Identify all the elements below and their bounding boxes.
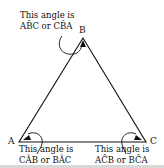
triangle [19, 38, 146, 142]
annotation-right-line1: This angle is [95, 144, 149, 155]
angle-markers [23, 40, 142, 140]
vertex-label-c: C [150, 136, 157, 146]
angle-marker-a [23, 135, 31, 140]
bottom-border [0, 165, 164, 168]
annotation-top: This angle is AB̂C or CB̂A [20, 10, 74, 32]
vertex-label-b: B [79, 25, 86, 35]
annotation-left: This angle is CÂB or BÂC [19, 144, 73, 166]
vertex-label-a: A [8, 136, 15, 146]
callout-arrows [28, 36, 136, 154]
annotation-left-line1: This angle is [19, 144, 73, 155]
angle-marker-c [134, 135, 142, 140]
annotation-right: This angle is AĈB or BĈA [95, 144, 149, 166]
annotation-top-line1: This angle is [20, 10, 74, 21]
annotation-top-line2: AB̂C or CB̂A [20, 21, 74, 32]
